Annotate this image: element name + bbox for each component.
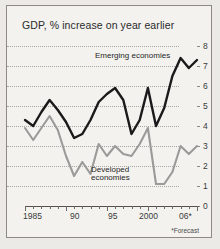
xtick-mark-1997 <box>123 206 124 209</box>
xtick-mark-1996 <box>115 206 116 209</box>
xtick-label-1985: 1985 <box>23 211 42 221</box>
xtick-mark-2004 <box>181 206 182 209</box>
series-label-developed: Developed economies <box>91 166 130 183</box>
xtick-mark-1991 <box>74 206 75 209</box>
xtick-label-95: 95 <box>108 211 117 221</box>
xtick-mark-1988 <box>50 206 51 209</box>
xtick-mark-1998 <box>132 206 133 209</box>
chart-plot-area <box>7 6 213 239</box>
chart-figure: GDP, % increase on year earlier 8 7 6 5 … <box>0 0 220 249</box>
xtick-label-06: 06* <box>179 211 192 221</box>
xtick-mark-1994 <box>99 206 100 209</box>
xtick-mark-1999 <box>140 206 141 209</box>
xtick-mark-2002 <box>164 206 165 209</box>
chart-frame: GDP, % increase on year earlier 8 7 6 5 … <box>6 5 212 238</box>
xtick-mark-2003 <box>172 206 173 209</box>
xtick-mark-1987 <box>41 206 42 209</box>
xtick-mark-2005 <box>189 206 190 209</box>
series-line-emerging <box>25 58 197 138</box>
xtick-mark-2006 <box>197 206 198 211</box>
chart-footnote: *Forecast <box>171 227 199 234</box>
xtick-mark-1989 <box>58 206 59 209</box>
xtick-label-90: 90 <box>70 211 79 221</box>
xtick-mark-1993 <box>91 206 92 209</box>
xtick-mark-1992 <box>82 206 83 209</box>
xtick-mark-1986 <box>33 206 34 209</box>
xtick-mark-1990 <box>66 206 67 211</box>
xtick-mark-2001 <box>156 206 157 209</box>
xtick-label-2000: 2000 <box>139 211 158 221</box>
series-label-developed-line2: economies <box>91 174 130 182</box>
series-label-emerging: Emerging economies <box>95 52 170 60</box>
